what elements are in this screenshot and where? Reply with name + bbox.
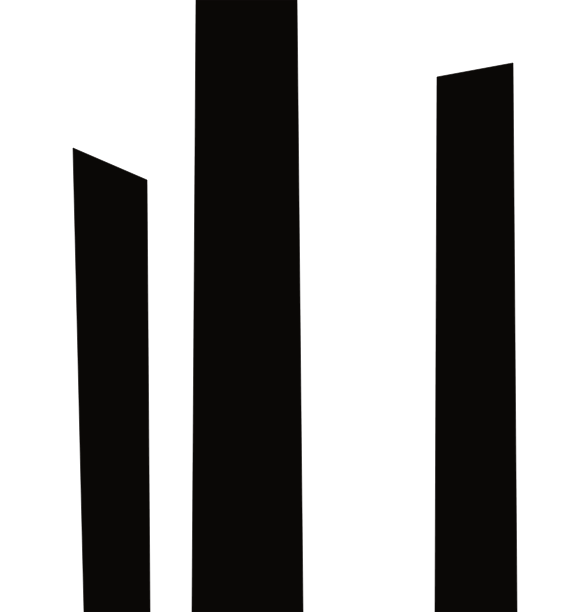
bar-2 <box>192 0 303 612</box>
chart-canvas <box>0 0 563 612</box>
bar-3 <box>435 63 517 612</box>
bar-1 <box>73 148 150 612</box>
bar-chart-silhouette: Three tall black bars on a white backgro… <box>0 0 563 612</box>
